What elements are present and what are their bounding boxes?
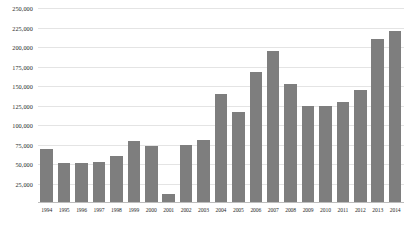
bar[interactable]: [337, 102, 350, 203]
x-axis-tick-label: 2012: [352, 205, 369, 219]
x-axis-tick-label: 2004: [212, 205, 229, 219]
bar-slot: [299, 8, 316, 203]
x-axis-tick-label: 2001: [160, 205, 177, 219]
bar[interactable]: [250, 72, 263, 203]
bar[interactable]: [319, 106, 332, 204]
y-axis-tick-label: 100,000: [12, 122, 33, 129]
bar[interactable]: [128, 141, 141, 203]
bar-slot: [264, 8, 281, 203]
x-axis-tick-label: 1996: [73, 205, 90, 219]
bar-slot: [282, 8, 299, 203]
x-axis-tick-label: 2011: [334, 205, 351, 219]
bar-slot: [352, 8, 369, 203]
bar[interactable]: [145, 146, 158, 203]
bar-slot: [195, 8, 212, 203]
bar-slot: [334, 8, 351, 203]
bar[interactable]: [389, 31, 402, 203]
bar-chart: 250,000225,000200,000175,000150,000125,0…: [0, 0, 408, 231]
x-axis-tick-label: 2000: [143, 205, 160, 219]
y-axis-tick-label: 150,000: [12, 83, 33, 90]
x-axis-tick-label: 1997: [90, 205, 107, 219]
x-axis-tick-label: 2003: [195, 205, 212, 219]
bar-slot: [90, 8, 107, 203]
x-axis-tick-label: 2002: [177, 205, 194, 219]
bar-slot: [386, 8, 403, 203]
x-axis-line: [38, 202, 404, 203]
y-axis-tick-label: 225,000: [12, 24, 33, 31]
bar[interactable]: [302, 106, 315, 204]
x-axis-tick-label: 2009: [299, 205, 316, 219]
bar-slot: [55, 8, 72, 203]
bar-slot: [230, 8, 247, 203]
plot-area: [38, 8, 404, 203]
x-axis-tick-label: 1994: [38, 205, 55, 219]
bar-slot: [125, 8, 142, 203]
bar[interactable]: [93, 162, 106, 203]
x-axis-tick-label: 2010: [317, 205, 334, 219]
x-axis-tick-label: 2007: [264, 205, 281, 219]
bar[interactable]: [371, 39, 384, 203]
x-axis-tick-label: 2013: [369, 205, 386, 219]
x-axis-tick-label: 1998: [108, 205, 125, 219]
bar-slot: [177, 8, 194, 203]
x-axis-tick-label: 1995: [55, 205, 72, 219]
bar[interactable]: [267, 51, 280, 203]
bar[interactable]: [215, 94, 228, 203]
bar-slot: [143, 8, 160, 203]
y-axis-tick-label: 250,000: [12, 5, 33, 12]
bar-slot: [160, 8, 177, 203]
bar-slot: [247, 8, 264, 203]
x-axis-tick-label: 2006: [247, 205, 264, 219]
y-axis-tick-label: 200,000: [12, 44, 33, 51]
bar[interactable]: [40, 149, 53, 203]
bar-slot: [317, 8, 334, 203]
x-axis: 1994199519961997199819992000200120022003…: [38, 205, 404, 219]
y-axis-tick-label: 125,000: [12, 102, 33, 109]
bar[interactable]: [58, 163, 71, 203]
bar-slot: [369, 8, 386, 203]
y-axis: 250,000225,000200,000175,000150,000125,0…: [0, 0, 36, 231]
bar-slot: [38, 8, 55, 203]
bar-slot: [73, 8, 90, 203]
bar-series: [38, 8, 404, 203]
bar[interactable]: [232, 112, 245, 203]
x-axis-tick-label: 2014: [386, 205, 403, 219]
x-axis-tick-label: 1999: [125, 205, 142, 219]
bar[interactable]: [110, 156, 123, 203]
bar[interactable]: [197, 140, 210, 203]
bar-slot: [212, 8, 229, 203]
y-axis-tick-label: 50,000: [15, 161, 33, 168]
bar[interactable]: [180, 145, 193, 203]
bar[interactable]: [284, 84, 297, 203]
bar-slot: [108, 8, 125, 203]
y-axis-tick-label: 75,000: [15, 141, 33, 148]
x-axis-tick-label: 2008: [282, 205, 299, 219]
y-axis-tick-label: 175,000: [12, 63, 33, 70]
x-axis-tick-label: 2005: [230, 205, 247, 219]
bar[interactable]: [75, 163, 88, 203]
y-axis-tick-label: 25,000: [15, 180, 33, 187]
bar[interactable]: [354, 90, 367, 203]
